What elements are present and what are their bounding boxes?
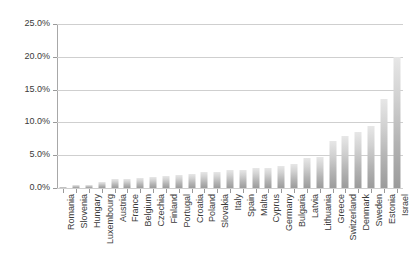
x-axis-tick-mark	[89, 189, 90, 193]
bar-slot	[83, 24, 96, 188]
bar-slot	[377, 24, 390, 188]
bar	[303, 158, 310, 188]
x-axis-tick-mark	[333, 189, 334, 193]
x-axis-category-label: Spain	[247, 194, 256, 217]
x-axis-tick-mark	[153, 189, 154, 193]
y-axis-tick-label: 5.0%	[2, 150, 50, 159]
x-axis-category-label: Bulgaria	[298, 194, 307, 227]
x-axis-tick-mark	[320, 189, 321, 193]
bar	[188, 174, 195, 188]
bar-slot	[365, 24, 378, 188]
bar-slot	[326, 24, 339, 188]
bar-slot	[224, 24, 237, 188]
bar	[86, 185, 93, 188]
y-axis-tick-label: 0.0%	[2, 183, 50, 192]
bar-slot	[95, 24, 108, 188]
x-axis-category-label: Israel	[401, 194, 409, 216]
x-axis-tick-mark	[307, 189, 308, 193]
x-axis-category-label: Portugal	[183, 194, 192, 228]
bar-slot	[313, 24, 326, 188]
x-axis-category-label: Slovakia	[221, 194, 230, 228]
y-axis-tick-label: 20.0%	[2, 52, 50, 61]
bar	[214, 172, 221, 188]
bar	[393, 57, 400, 188]
bar	[367, 126, 374, 188]
x-axis-category-label: Czechia	[157, 194, 166, 227]
bar	[111, 179, 118, 188]
bar-slot	[185, 24, 198, 188]
x-axis-category-label: Finland	[170, 194, 179, 224]
bar	[342, 136, 349, 188]
x-axis-category-label: Slovenia	[80, 194, 89, 229]
x-axis-category-label: Malta	[260, 194, 269, 216]
bar-slot	[172, 24, 185, 188]
x-axis-category-label: Austria	[119, 194, 128, 222]
bars-container	[57, 24, 403, 188]
bar-slot	[134, 24, 147, 188]
bar-slot	[108, 24, 121, 188]
x-axis-category-label: Belgium	[144, 194, 153, 227]
bar	[226, 170, 233, 188]
bar	[316, 157, 323, 188]
x-axis-tick-mark	[358, 189, 359, 193]
x-axis-category-label: Hungary	[93, 194, 102, 228]
x-axis-tick-mark	[397, 189, 398, 193]
x-axis-tick-mark	[371, 189, 372, 193]
x-axis-tick-mark	[345, 189, 346, 193]
bar-slot	[70, 24, 83, 188]
x-axis-category-label: Greece	[337, 194, 346, 224]
x-axis-tick-mark	[256, 189, 257, 193]
bar-slot	[211, 24, 224, 188]
x-axis-tick-mark	[268, 189, 269, 193]
bar	[137, 178, 144, 188]
bar-slot	[262, 24, 275, 188]
x-axis-category-label: Lithuania	[324, 194, 333, 231]
bar-slot	[147, 24, 160, 188]
x-axis-category-label: Poland	[208, 194, 217, 222]
bar	[329, 141, 336, 188]
bar-slot	[57, 24, 70, 188]
bar-slot	[121, 24, 134, 188]
x-axis-tick-mark	[63, 189, 64, 193]
x-axis-category-label: Switzerland	[349, 194, 358, 241]
x-axis-tick-mark	[294, 189, 295, 193]
x-axis-category-label: Latvia	[311, 194, 320, 218]
x-axis-tick-mark	[166, 189, 167, 193]
x-axis-category-label: France	[131, 194, 140, 222]
bar	[278, 166, 285, 188]
x-axis-category-label: Italy	[234, 194, 243, 211]
x-axis-category-label: Germany	[285, 194, 294, 231]
bar-slot	[288, 24, 301, 188]
x-axis-tick-mark	[204, 189, 205, 193]
bar-slot	[390, 24, 403, 188]
bar	[162, 176, 169, 188]
x-axis-tick-mark	[115, 189, 116, 193]
x-axis-category-label: Estonia	[388, 194, 397, 224]
bar-slot	[300, 24, 313, 188]
x-axis-category-label: Luxembourg	[106, 194, 115, 244]
x-axis-tick-mark	[230, 189, 231, 193]
bar	[73, 185, 80, 188]
bar-slot	[236, 24, 249, 188]
x-axis-tick-mark	[76, 189, 77, 193]
x-axis-category-label: Sweden	[375, 194, 384, 227]
bar-slot	[275, 24, 288, 188]
bar	[355, 132, 362, 188]
bar-slot	[352, 24, 365, 188]
bar	[150, 177, 157, 188]
bar	[380, 99, 387, 188]
y-axis-tick-label: 25.0%	[2, 19, 50, 28]
bar	[98, 182, 105, 188]
bar	[265, 168, 272, 188]
y-axis-tick-mark	[53, 188, 57, 189]
x-axis-tick-mark	[140, 189, 141, 193]
x-axis-tick-mark	[192, 189, 193, 193]
bar-slot	[249, 24, 262, 188]
x-axis-category-label: Cyprus	[272, 194, 281, 223]
x-axis-tick-mark	[127, 189, 128, 193]
x-axis-tick-mark	[102, 189, 103, 193]
x-axis-tick-mark	[281, 189, 282, 193]
bar	[124, 179, 131, 188]
bar-slot	[339, 24, 352, 188]
bar	[239, 170, 246, 188]
